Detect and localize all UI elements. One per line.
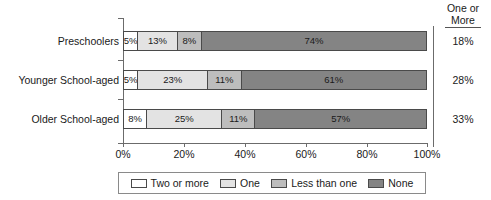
x-axis-tick-label: 20%	[164, 148, 204, 160]
y-axis-tick	[118, 60, 123, 61]
bar-segment: 5%	[123, 70, 138, 90]
legend-swatch-icon	[131, 179, 147, 188]
bar-segment: 11%	[222, 109, 255, 129]
bar-row-preschoolers: 5%13%8%74%	[123, 31, 427, 51]
x-axis-tick	[245, 143, 246, 147]
bar-segment-label: 74%	[304, 36, 323, 46]
bar-segment-label: 5%	[124, 75, 138, 85]
side-column-value: 28%	[437, 74, 489, 86]
x-axis-tick	[184, 143, 185, 147]
legend-item[interactable]: One	[220, 177, 260, 189]
bar-segment: 13%	[138, 31, 178, 51]
legend-item-label: None	[388, 177, 413, 189]
bar-segment-label: 5%	[124, 36, 138, 46]
side-column-value: 33%	[437, 113, 489, 125]
bar-segment-label: 23%	[163, 75, 182, 85]
bar-row-younger-school-aged: 5%23%11%61%	[123, 70, 427, 90]
bar-segment: 25%	[147, 109, 222, 129]
legend-item[interactable]: None	[368, 177, 413, 189]
x-axis-tick	[367, 143, 368, 147]
bar-segment: 8%	[178, 31, 202, 51]
legend-item[interactable]: Less than one	[271, 177, 357, 189]
bar-segment-label: 8%	[128, 114, 142, 124]
legend-swatch-icon	[368, 179, 384, 188]
category-label-younger-school-aged: Younger School-aged	[0, 74, 119, 86]
bar-segment: 11%	[208, 70, 241, 90]
x-axis-line	[123, 143, 428, 144]
side-column-header-line1: One or	[437, 2, 489, 14]
y-axis-tick	[118, 99, 123, 100]
bar-row-older-school-aged: 8%25%11%57%	[123, 109, 427, 129]
x-axis-tick-label: 60%	[286, 148, 326, 160]
bar-segment-label: 13%	[148, 36, 167, 46]
side-column-value: 18%	[437, 35, 489, 47]
x-axis-tick	[306, 143, 307, 147]
bar-segment-label: 61%	[324, 75, 343, 85]
bar-segment: 23%	[138, 70, 208, 90]
chart-legend: Two or moreOneLess than oneNone	[118, 172, 426, 194]
y-axis-tick	[118, 18, 123, 19]
x-axis-tick-label: 40%	[225, 148, 265, 160]
side-column-header: One or More	[437, 2, 489, 28]
legend-item-label: One	[240, 177, 260, 189]
stacked-bar-chart: One or More 0% 20% 40% 60% 80% 100% Pres…	[0, 0, 491, 200]
legend-item-label: Two or more	[151, 177, 209, 189]
x-axis-tick	[427, 143, 428, 147]
legend-item-label: Less than one	[291, 177, 357, 189]
bar-segment-label: 8%	[182, 36, 196, 46]
legend-item[interactable]: Two or more	[131, 177, 209, 189]
bar-segment-label: 11%	[229, 114, 247, 124]
bar-segment: 5%	[123, 31, 138, 51]
x-axis-tick	[123, 143, 124, 147]
bar-segment-label: 57%	[331, 114, 350, 124]
x-axis-tick-label: 100%	[407, 148, 447, 160]
x-axis-tick-label: 0%	[103, 148, 143, 160]
x-axis-tick-label: 80%	[347, 148, 387, 160]
bar-segment-label: 25%	[175, 114, 194, 124]
side-column-header-line2: More	[445, 14, 481, 28]
bar-segment: 8%	[123, 109, 147, 129]
side-column-divider	[433, 26, 434, 147]
legend-swatch-icon	[220, 179, 236, 188]
category-label-preschoolers: Preschoolers	[0, 35, 119, 47]
bar-segment: 74%	[202, 31, 427, 51]
bar-segment: 57%	[255, 109, 427, 129]
bar-segment-label: 11%	[215, 75, 233, 85]
legend-swatch-icon	[271, 179, 287, 188]
bar-segment: 61%	[242, 70, 427, 90]
category-label-older-school-aged: Older School-aged	[0, 113, 119, 125]
